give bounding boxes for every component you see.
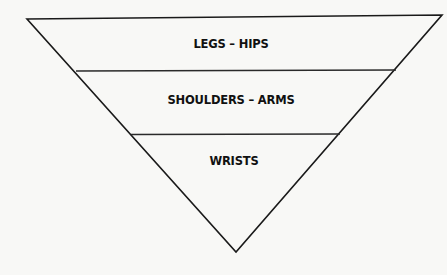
tier-label-legs-hips: LEGS – HIPS [193,37,268,51]
tier-divider-2 [131,134,340,135]
tier-divider-1 [76,70,396,71]
inverted-pyramid-diagram: LEGS – HIPS SHOULDERS – ARMS WRISTS [0,0,447,275]
tier-label-shoulders-arms: SHOULDERS – ARMS [168,93,295,107]
tier-label-wrists: WRISTS [209,154,258,168]
